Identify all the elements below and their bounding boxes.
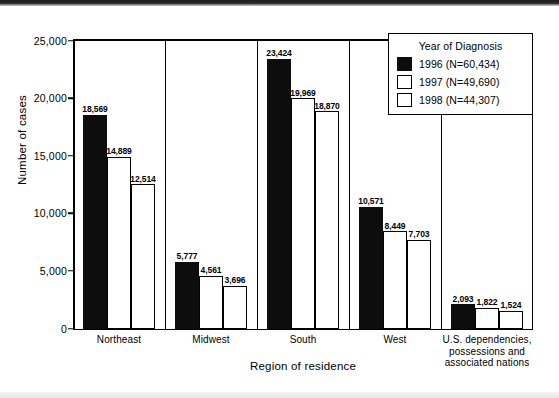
bar-value-label: 1,524 [501,300,522,310]
legend-item: 1998 (N=44,307) [397,93,524,107]
bar: 5,777 [175,262,199,329]
bar: 3,696 [223,286,247,329]
bar-value-label: 1,822 [477,297,498,307]
y-tick-mark [68,40,73,42]
group-separator [165,40,166,329]
bar: 12,514 [131,184,155,328]
chart-figure: Number of cases 05,00010,00015,00020,000… [0,0,559,398]
y-tick-mark [68,213,73,215]
bar-value-label: 23,424 [266,48,291,58]
bar-value-label: 8,449 [385,221,406,231]
legend-entries: 1996 (N=60,434)1997 (N=49,690)1998 (N=44… [397,57,524,107]
bar-value-label: 5,777 [177,251,198,261]
legend-swatch [397,75,412,89]
y-tick-mark [68,270,73,272]
bar: 23,424 [267,59,291,329]
y-tick-mark [68,328,73,330]
y-axis-title: Number of cases [16,95,28,185]
bar-value-label: 18,569 [82,104,107,114]
legend-item: 1996 (N=60,434) [397,57,524,71]
x-tick-label-line: possessions and [423,346,551,358]
bar-value-label: 14,889 [106,146,131,156]
bar-value-label: 10,571 [358,196,383,206]
scan-artifact-top [0,0,559,6]
bar: 10,571 [359,207,383,329]
legend-title: Year of Diagnosis [397,40,524,52]
legend: Year of Diagnosis 1996 (N=60,434)1997 (N… [388,33,533,115]
scan-artifact-bottom [0,392,559,398]
y-axis-line [73,39,75,330]
bar: 4,561 [199,276,223,329]
bar: 18,870 [315,111,339,328]
bar-value-label: 12,514 [130,174,155,184]
x-axis-line [73,329,533,331]
x-tick-label-line: U.S. dependencies, [423,334,551,346]
bar-value-label: 4,561 [201,265,222,275]
bar: 7,703 [407,240,431,329]
legend-label: 1996 (N=60,434) [419,58,500,70]
bar: 2,093 [451,304,475,328]
bar: 1,822 [475,308,499,329]
legend-swatch [397,57,412,71]
bar-value-label: 18,870 [314,101,339,111]
legend-label: 1997 (N=49,690) [419,76,500,88]
bar-value-label: 3,696 [225,275,246,285]
group-separator [257,40,258,329]
bar: 18,569 [83,115,107,329]
y-tick-mark [68,97,73,99]
bar-value-label: 19,969 [290,88,315,98]
legend-item: 1997 (N=49,690) [397,75,524,89]
bar-value-label: 2,093 [453,294,474,304]
bar: 1,524 [499,311,523,329]
bar-value-label: 7,703 [409,229,430,239]
legend-swatch [397,93,412,107]
x-axis-title: Region of residence [73,360,533,372]
y-tick-mark [68,155,73,157]
bar: 8,449 [383,231,407,328]
bar: 14,889 [107,157,131,329]
legend-label: 1998 (N=44,307) [419,94,500,106]
bar: 19,969 [291,98,315,328]
group-separator [349,40,350,329]
